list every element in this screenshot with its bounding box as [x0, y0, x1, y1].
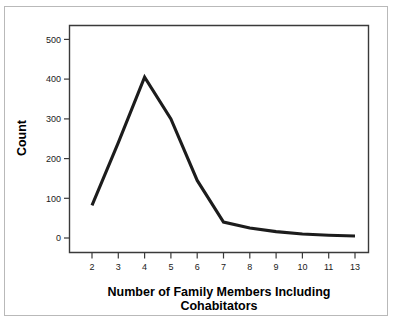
y-tick-label: 200	[46, 154, 61, 164]
x-tick-label: 11	[324, 262, 333, 272]
x-tick-label: 4	[142, 262, 147, 272]
x-tick-label: 8	[247, 262, 252, 272]
x-tick-label: 3	[116, 262, 121, 272]
x-axis-ticks	[92, 253, 355, 259]
y-tick-label: 0	[56, 233, 61, 243]
x-tick-label: 13	[350, 262, 360, 272]
x-tick-label: 2	[89, 262, 94, 272]
chart-page: 500 400 300 200 100 0 2 3 4 5 6	[0, 0, 395, 325]
x-tick-label: 9	[274, 262, 279, 272]
x-tick-label: 6	[195, 262, 200, 272]
y-tick-label: 300	[46, 114, 61, 124]
x-tick-label: 7	[221, 262, 226, 272]
x-axis-title-line2: Cohabitators	[180, 299, 257, 313]
x-tick-label: 5	[168, 262, 173, 272]
x-tick-label: 10	[297, 262, 307, 272]
y-axis-title: Count	[15, 119, 29, 156]
plot-frame	[70, 26, 369, 253]
y-axis-tick-labels: 500 400 300 200 100 0	[46, 35, 61, 244]
y-tick-label: 400	[46, 74, 61, 84]
x-axis-tick-labels: 2 3 4 5 6 7 8 9 10 11 13	[89, 262, 360, 272]
data-series-line	[92, 77, 355, 236]
y-tick-label: 500	[46, 35, 61, 45]
y-axis-ticks	[64, 39, 70, 238]
y-tick-label: 100	[46, 194, 61, 204]
x-axis-title-line1: Number of Family Members Including	[108, 285, 331, 299]
line-chart: 500 400 300 200 100 0 2 3 4 5 6	[0, 0, 395, 325]
